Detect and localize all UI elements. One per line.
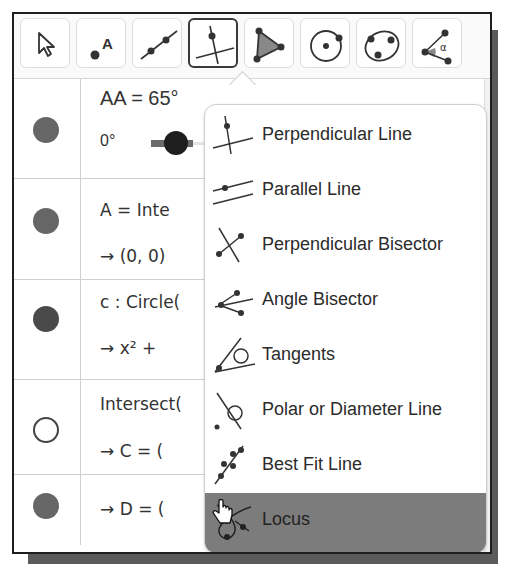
tool-line[interactable] — [132, 18, 182, 68]
menu-label: Perpendicular Bisector — [262, 234, 443, 255]
menu-label: Locus — [262, 509, 310, 530]
polar-diameter-line-icon — [211, 389, 259, 433]
menu-item-perpendicular-line[interactable]: Perpendicular Line — [205, 108, 486, 163]
visibility-toggle[interactable] — [33, 493, 59, 519]
menu-label: Best Fit Line — [262, 454, 362, 475]
best-fit-line-icon — [211, 444, 259, 488]
menu-label: Parallel Line — [262, 179, 361, 200]
menu-item-perpendicular-bisector[interactable]: Perpendicular Bisector — [205, 218, 486, 273]
menu-item-tangents[interactable]: Tangents — [205, 328, 486, 383]
tool-circle-three-points[interactable] — [356, 18, 406, 68]
menu-item-locus[interactable]: Locus — [205, 493, 486, 553]
menu-item-polar-diameter-line[interactable]: Polar or Diameter Line — [205, 383, 486, 438]
visibility-cell[interactable] — [14, 79, 81, 178]
menu-item-best-fit-line[interactable]: Best Fit Line — [205, 438, 486, 493]
angle-icon: α — [413, 19, 463, 69]
definition-text: Intersect( — [100, 394, 182, 414]
perpendicular-line-icon — [211, 114, 259, 158]
svg-text:A: A — [102, 35, 113, 52]
tangents-icon — [211, 334, 259, 378]
menu-label: Tangents — [262, 344, 335, 365]
toolbar: A — [14, 14, 490, 79]
perpendicular-bisector-icon — [211, 224, 259, 268]
visibility-cell[interactable] — [14, 380, 81, 474]
tool-perpendicular-line[interactable] — [188, 18, 238, 68]
menu-item-parallel-line[interactable]: Parallel Line — [205, 163, 486, 218]
menu-item-angle-bisector[interactable]: Angle Bisector — [205, 273, 486, 328]
geogebra-window: A — [12, 12, 492, 554]
visibility-toggle[interactable] — [33, 306, 59, 332]
menu-label: Angle Bisector — [262, 289, 378, 310]
slider-min-label: 0° — [100, 132, 115, 150]
angle-bisector-icon — [211, 279, 259, 323]
tool-circle-center-point[interactable] — [300, 18, 350, 68]
circle-center-point-icon — [301, 19, 351, 69]
value-text: → x² + — [100, 338, 156, 358]
circle-three-points-icon — [357, 19, 407, 69]
svg-text:α: α — [440, 42, 447, 53]
tool-submenu: Perpendicular Line Parallel Line Perpend… — [204, 104, 487, 554]
slider-knob[interactable] — [164, 131, 188, 155]
menu-label: Perpendicular Line — [262, 124, 412, 145]
value-text: → C = ( — [100, 441, 163, 461]
point-icon: A — [77, 19, 127, 69]
visibility-cell[interactable] — [14, 280, 81, 379]
visibility-cell[interactable] — [14, 179, 81, 279]
value-text: → D = ( — [100, 499, 164, 519]
parallel-line-icon — [211, 169, 259, 213]
tool-angle[interactable]: α — [412, 18, 462, 68]
visibility-toggle[interactable] — [33, 417, 59, 443]
value-text: → (0, 0) — [100, 246, 165, 266]
polygon-icon — [245, 19, 295, 69]
definition-text: c : Circle( — [100, 292, 180, 312]
slider-definition: AA = 65° — [100, 87, 179, 110]
visibility-cell[interactable] — [14, 475, 81, 545]
tool-polygon[interactable] — [244, 18, 294, 68]
perpendicular-line-icon — [190, 20, 240, 70]
tool-point[interactable]: A — [76, 18, 126, 68]
menu-label: Polar or Diameter Line — [262, 399, 442, 420]
line-through-two-points-icon — [133, 19, 183, 69]
definition-text: A = Inte — [100, 200, 170, 220]
cursor-arrow-icon — [21, 19, 71, 69]
visibility-toggle[interactable] — [33, 117, 59, 143]
hand-pointer-cursor-icon — [211, 499, 235, 527]
visibility-toggle[interactable] — [33, 208, 59, 234]
tool-move[interactable] — [20, 18, 70, 68]
